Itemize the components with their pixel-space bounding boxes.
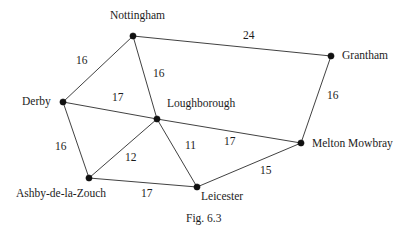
edge-weight-loughborough-leicester: 11 [185, 140, 196, 152]
figure-caption: Fig. 6.3 [186, 213, 221, 225]
graph-edge [157, 119, 197, 187]
graph-canvas [0, 0, 418, 242]
graph-edge [133, 36, 331, 56]
edge-weight-nottingham-loughborough: 16 [153, 68, 165, 80]
edge-weight-ashby-leicester: 17 [141, 188, 153, 200]
graph-node-grantham[interactable] [328, 53, 334, 59]
graph-node-nottingham[interactable] [130, 33, 136, 39]
graph-edge [197, 143, 301, 187]
graph-node-ashby[interactable] [86, 175, 92, 181]
nodes-group [60, 33, 334, 190]
edge-weight-leicester-melton: 15 [260, 165, 272, 177]
edge-weight-ashby-loughborough: 12 [125, 152, 137, 164]
edge-weight-derby-loughborough: 17 [112, 92, 124, 104]
node-label-melton: Melton Mowbray [312, 138, 393, 150]
edge-weight-derby-nottingham: 16 [76, 55, 88, 67]
node-label-ashby: Ashby-de-la-Zouch [16, 188, 106, 200]
figure-container: 1624161716161211171715 NottinghamGrantha… [0, 0, 418, 242]
graph-node-leicester[interactable] [194, 184, 200, 190]
graph-edge [89, 119, 157, 178]
edges-group [63, 36, 331, 187]
graph-node-derby[interactable] [60, 99, 66, 105]
graph-node-melton[interactable] [298, 140, 304, 146]
graph-edge [63, 102, 157, 119]
edge-weight-nottingham-grantham: 24 [243, 30, 255, 42]
node-label-loughborough: Loughborough [167, 98, 235, 110]
graph-node-loughborough[interactable] [154, 116, 160, 122]
edge-weight-grantham-melton: 16 [327, 90, 339, 102]
graph-edge [89, 178, 197, 187]
node-label-grantham: Grantham [342, 50, 388, 62]
node-label-leicester: Leicester [201, 191, 243, 203]
node-label-nottingham: Nottingham [110, 10, 165, 22]
edge-weight-loughborough-melton: 17 [224, 136, 236, 148]
node-label-derby: Derby [22, 96, 51, 108]
edge-weight-derby-ashby: 16 [55, 141, 67, 153]
